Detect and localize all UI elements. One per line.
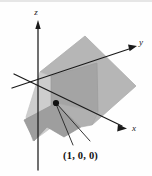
axis-y-arrowhead xyxy=(128,44,137,51)
figure-canvas: z y x (1, 0, 0) xyxy=(0,0,152,176)
point-marker xyxy=(53,100,59,106)
axis-label-y: y xyxy=(138,37,143,47)
coordinate-system-diagram: z y x (1, 0, 0) xyxy=(0,0,152,176)
point-coordinate-label: (1, 0, 0) xyxy=(63,150,98,162)
top-edge-band xyxy=(0,0,152,2)
axis-label-z: z xyxy=(33,7,38,17)
axis-label-x: x xyxy=(131,123,136,133)
axis-z-arrowhead xyxy=(35,20,40,29)
